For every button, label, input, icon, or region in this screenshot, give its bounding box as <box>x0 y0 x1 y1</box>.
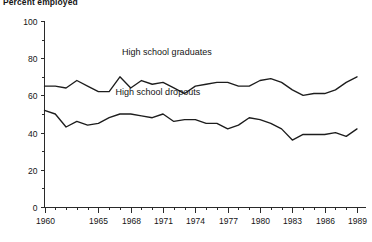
x-tick-label: 1974 <box>186 216 205 226</box>
y-tick-label: 20 <box>28 166 38 176</box>
series-label-dropouts: High school dropouts <box>116 87 201 97</box>
x-axis: 1960196519681971197419771980198319861989 <box>36 207 367 226</box>
chart-figure: Percent employed 020406080100 1960196519… <box>0 0 372 242</box>
x-tick-label: 1980 <box>251 216 270 226</box>
x-tick-label: 1960 <box>36 216 55 226</box>
series-label-group: High school graduatesHigh school dropout… <box>116 47 213 98</box>
y-axis: 020406080100 <box>23 17 44 213</box>
x-tick-label: 1965 <box>89 216 108 226</box>
x-tick-label: 1971 <box>154 216 173 226</box>
y-axis-tick-labels: 020406080100 <box>23 17 37 213</box>
y-tick-label: 100 <box>23 17 37 27</box>
data-series-group <box>45 77 358 140</box>
line-chart-plot: 020406080100 196019651968197119741977198… <box>0 0 372 242</box>
x-tick-label: 1986 <box>316 216 335 226</box>
x-tick-label: 1983 <box>283 216 302 226</box>
y-tick-label: 60 <box>28 91 38 101</box>
x-tick-label: 1989 <box>348 216 367 226</box>
y-tick-label: 80 <box>28 54 38 64</box>
x-tick-label: 1977 <box>219 216 238 226</box>
series-label-graduates: High school graduates <box>122 47 212 57</box>
x-axis-tick-labels: 1960196519681971197419771980198319861989 <box>36 216 367 226</box>
series-line-dropouts <box>45 110 358 140</box>
x-tick-label: 1968 <box>122 216 141 226</box>
y-tick-label: 0 <box>33 203 38 213</box>
series-line-graduates <box>45 77 358 96</box>
y-tick-label: 40 <box>28 129 38 139</box>
